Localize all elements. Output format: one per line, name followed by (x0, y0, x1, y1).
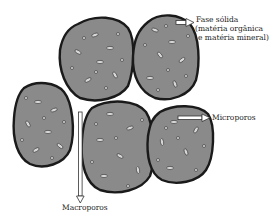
macropores-label: Macroporos (62, 203, 108, 212)
aggregate-top-right (133, 15, 199, 99)
aggregate-top-left (60, 18, 134, 101)
solid-phase-label-line1: Fase sólida (196, 15, 238, 24)
aggregate-bottom-center (82, 102, 154, 193)
soil-structure-diagram: Fase sólida (matéria orgânica e matéria … (0, 0, 272, 220)
micropores-label: Microporos (212, 113, 256, 122)
solid-phase-label-line3: e matéria mineral) (198, 33, 269, 42)
solid-phase-label-line2: (matéria orgânica (195, 24, 263, 33)
aggregate-left (14, 83, 73, 166)
